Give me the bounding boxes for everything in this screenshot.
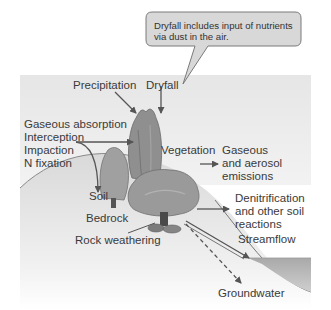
nutrient-cycle-diagram: Dryfall includes input of nutrients via … (0, 0, 331, 310)
label-vegetation: Vegetation (161, 144, 215, 157)
label-rock-weathering: Rock weathering (75, 234, 161, 247)
label-gaseous-emissions-1: Gaseous (222, 144, 268, 157)
label-denitrification-2: and other soil (235, 205, 304, 218)
label-denitrification-1: Denitrification (235, 192, 305, 205)
label-groundwater: Groundwater (218, 287, 284, 300)
label-n-fixation: N fixation (24, 157, 72, 170)
label-interception: Interception (24, 131, 84, 144)
label-gaseous-emissions-3: emissions (222, 170, 273, 183)
label-gaseous-absorption: Gaseous absorption (24, 118, 127, 131)
label-gaseous-emissions-2: and aerosol (222, 157, 282, 170)
label-dryfall: Dryfall (146, 79, 179, 92)
label-soil: Soil (89, 190, 108, 203)
label-precipitation: Precipitation (73, 79, 136, 92)
label-denitrification-3: reactions (235, 218, 282, 231)
label-impaction: Impaction (24, 144, 74, 157)
label-streamflow: Streamflow (238, 233, 296, 246)
callout-text: Dryfall includes input of nutrients via … (154, 20, 304, 42)
label-bedrock: Bedrock (86, 212, 128, 225)
